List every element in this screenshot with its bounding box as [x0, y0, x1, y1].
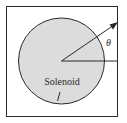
solenoid-diagram: θ Solenoid: [0, 0, 127, 123]
solenoid-label: Solenoid: [44, 76, 80, 87]
theta-label: θ: [106, 37, 111, 48]
